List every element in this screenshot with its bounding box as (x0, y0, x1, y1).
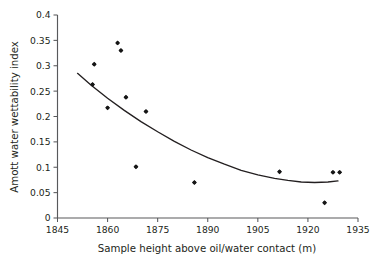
x-tick-label: 1845 (46, 224, 70, 235)
x-axis-title: Sample height above oil/water contact (m… (98, 243, 316, 254)
y-tick-label: 0.05 (30, 187, 51, 198)
y-tick-label: 0.3 (36, 60, 51, 71)
x-tick-label: 1860 (96, 224, 120, 235)
x-tick-label: 1890 (196, 224, 220, 235)
data-point-core (331, 171, 335, 175)
y-tick-labels-group: 00.050.10.150.20.250.30.350.4 (30, 9, 51, 223)
y-tick-label: 0.35 (30, 35, 51, 46)
y-tick-label: 0.1 (36, 162, 51, 173)
data-point-core (106, 106, 110, 110)
data-points-group (90, 40, 342, 205)
scatter-plot: 00.050.10.150.20.250.30.350.4 1845186018… (0, 0, 380, 262)
x-tick-label: 1935 (346, 224, 370, 235)
chart-container: 00.050.10.150.20.250.30.350.4 1845186018… (0, 0, 380, 262)
x-tick-labels-group: 1845186018751890190519201935 (46, 224, 370, 235)
tick-marks-group (54, 15, 359, 222)
x-tick-label: 1920 (296, 224, 320, 235)
y-tick-label: 0.2 (36, 111, 51, 122)
data-point-core (323, 201, 327, 205)
y-tick-label: 0 (45, 212, 51, 223)
data-point-core (338, 171, 342, 175)
data-point-core (91, 83, 95, 87)
data-point-core (92, 62, 96, 66)
y-axis-title: Amott water wettability index (9, 41, 20, 193)
data-point-core (278, 170, 282, 174)
axes-group (58, 15, 359, 218)
x-tick-label: 1875 (146, 224, 170, 235)
data-point-core (144, 110, 148, 114)
data-point-core (134, 165, 138, 169)
data-point-core (116, 41, 120, 45)
data-point-core (119, 49, 123, 53)
x-tick-label: 1905 (246, 224, 270, 235)
data-point-core (124, 95, 128, 99)
data-point-core (193, 181, 197, 185)
y-tick-label: 0.15 (30, 136, 51, 147)
y-tick-label: 0.25 (30, 86, 51, 97)
y-tick-label: 0.4 (36, 9, 51, 20)
trendline-curve (78, 73, 338, 182)
